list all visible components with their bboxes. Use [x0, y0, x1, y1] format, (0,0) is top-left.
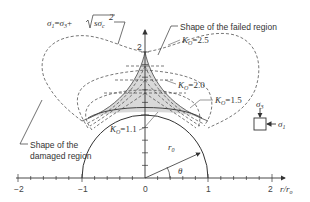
svg-text:σ1: σ1 [278, 119, 285, 130]
x-tick-neg2: −2 [14, 184, 24, 194]
svg-text:σ3: σ3 [256, 99, 263, 110]
stress-element-icon: σ3 σ1 [254, 99, 285, 130]
svg-text:2: 2 [109, 12, 114, 22]
svg-text:sσc: sσc [94, 18, 105, 29]
damaged-region-label-line2: damaged region [30, 151, 92, 161]
failed-region-label: Shape of the failed region [180, 22, 277, 32]
damaged-region-leader [20, 100, 42, 144]
failure-criterion-equation: σ1=σ3+ sσc 2 [47, 12, 125, 44]
svg-text:σ1=σ3+: σ1=σ3+ [47, 18, 72, 29]
r0-label: r0 [168, 142, 175, 153]
damaged-region-label-line1: Shape of the [30, 140, 78, 150]
failed-region-leader [158, 26, 178, 55]
x-tick-neg1: −1 [78, 184, 88, 194]
x-tick-0: 0 [143, 184, 148, 194]
theta-label: θ [178, 166, 183, 176]
k0-1.1-label: KO=1.1 [109, 124, 137, 135]
diagram-canvas: −2 −1 0 1 2 2 r/ro r0 θ σ1=σ3+ sσc 2 Sha… [0, 0, 310, 202]
x-axis-label: r/ro [280, 184, 293, 195]
radius-r0-arrow [145, 153, 200, 178]
k0-2.0-label: KO=2.0 [177, 80, 205, 91]
k0-2.5-label: KO=2.5 [181, 35, 209, 46]
y-tick-2: 2 [137, 42, 142, 52]
k0-1.5-label: KO=1.5 [214, 95, 242, 106]
x-tick-2: 2 [268, 184, 273, 194]
theta-arc [167, 167, 170, 178]
x-tick-1: 1 [206, 184, 211, 194]
